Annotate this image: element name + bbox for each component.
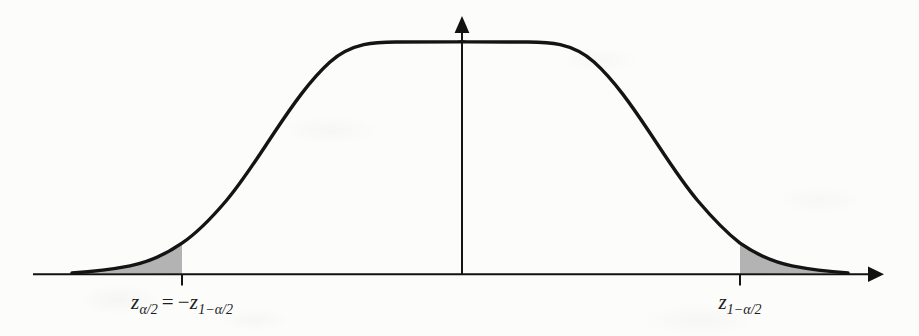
normal-distribution-figure: zα/2=−z1−α/2 z1−α/2 [0,0,919,336]
right-label-subscript: 1−α/2 [727,302,762,317]
left-label-subscript: α/2 [139,302,157,317]
normal-density-curve [72,42,848,273]
left-critical-value-label: zα/2=−z1−α/2 [131,292,233,313]
left-label-equals-sign: = [158,290,178,314]
vertical-axis-arrowhead-icon [455,16,470,33]
left-tail-shaded-region [72,243,182,273]
right-critical-value-label: z1−α/2 [718,292,761,313]
left-label-right-subscript: 1−α/2 [198,302,233,317]
horizontal-axis-arrowhead-icon [868,266,884,282]
right-tail-shaded-region [740,243,848,273]
left-label-minus-sign: − [178,290,190,314]
distribution-plot [0,0,919,336]
left-label-right-z-symbol: z [190,290,198,314]
